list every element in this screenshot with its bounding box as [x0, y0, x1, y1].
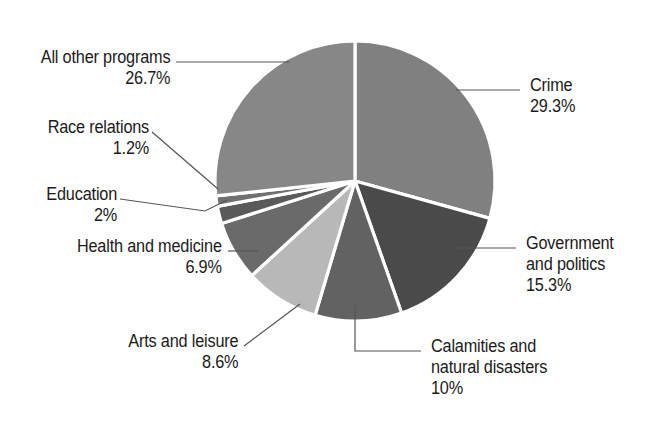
pie-label-arts-and-leisure-value: 8.6%	[128, 352, 238, 373]
pie-label-race-relations-value: 1.2%	[48, 138, 149, 159]
pie-label-calamities: Calamities and natural disasters 10%	[431, 336, 547, 399]
pie-label-calamities-name-line2: natural disasters	[431, 357, 547, 378]
pie-label-all-other-programs-name: All other programs	[40, 47, 170, 68]
pie-label-health-and-medicine-value: 6.9%	[77, 257, 222, 278]
pie-label-calamities-name-line1: Calamities and	[431, 336, 547, 357]
pie-label-all-other-programs: All other programs 26.7%	[40, 47, 170, 89]
leader-line-arts-and-leisure	[244, 304, 300, 346]
pie-label-calamities-value: 10%	[431, 378, 547, 399]
pie-chart-figure: Crime 29.3%Government and politics 15.3%…	[0, 0, 657, 423]
pie-label-government-and-politics-value: 15.3%	[526, 275, 614, 296]
pie-label-government-and-politics-name-line2: and politics	[526, 254, 614, 275]
leader-line-education	[120, 199, 227, 211]
pie-label-education-value: 2%	[46, 205, 117, 226]
pie-label-arts-and-leisure: Arts and leisure 8.6%	[128, 331, 238, 373]
pie-label-education-name: Education	[46, 184, 117, 205]
pie-label-arts-and-leisure-name: Arts and leisure	[128, 331, 238, 352]
pie-slices-group: Crime 29.3%Government and politics 15.3%…	[215, 41, 495, 321]
pie-label-health-and-medicine-name: Health and medicine	[77, 236, 222, 257]
pie-label-crime: Crime 29.3%	[530, 75, 575, 117]
leader-line-race-relations	[152, 132, 218, 189]
pie-label-health-and-medicine: Health and medicine 6.9%	[77, 236, 222, 278]
pie-label-all-other-programs-value: 26.7%	[40, 68, 170, 89]
pie-slice-all-other-programs: All other programs 26.7%	[215, 41, 355, 196]
pie-label-government-and-politics: Government and politics 15.3%	[526, 233, 614, 296]
pie-label-crime-value: 29.3%	[530, 96, 575, 117]
pie-label-government-and-politics-name-line1: Government	[526, 233, 614, 254]
pie-label-race-relations: Race relations 1.2%	[48, 117, 149, 159]
pie-label-crime-name: Crime	[530, 75, 575, 96]
pie-label-education: Education 2%	[46, 184, 117, 226]
pie-label-race-relations-name: Race relations	[48, 117, 149, 138]
